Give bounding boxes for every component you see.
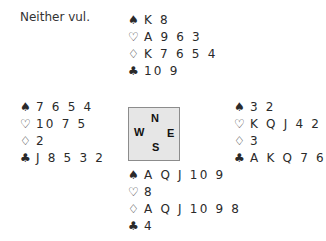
club-icon: ♣ <box>128 218 144 235</box>
north-spades: ♠K 8 <box>128 12 217 29</box>
east-spades: ♠3 2 <box>234 99 326 116</box>
diamond-icon: ♢ <box>234 133 250 150</box>
spade-icon: ♠ <box>20 99 36 116</box>
north-clubs: ♣10 9 <box>128 63 217 80</box>
west-hand: ♠7 6 5 4 ♡10 7 5 ♢2 ♣J 8 5 3 2 <box>20 99 105 167</box>
heart-icon: ♡ <box>234 116 250 133</box>
club-icon: ♣ <box>128 63 144 80</box>
east-hearts: ♡K Q J 4 2 <box>234 116 326 133</box>
club-icon: ♣ <box>234 150 250 167</box>
spade-icon: ♠ <box>128 167 144 184</box>
heart-icon: ♡ <box>20 116 36 133</box>
diamond-icon: ♢ <box>128 201 144 218</box>
compass-south: S <box>152 141 159 153</box>
west-spades: ♠7 6 5 4 <box>20 99 105 116</box>
compass-north: N <box>151 112 159 124</box>
east-hand: ♠3 2 ♡K Q J 4 2 ♢3 ♣A K Q 7 6 <box>234 99 326 167</box>
heart-icon: ♡ <box>128 184 144 201</box>
east-diamonds: ♢3 <box>234 133 326 150</box>
diamond-icon: ♢ <box>20 133 36 150</box>
east-clubs: ♣A K Q 7 6 <box>234 150 326 167</box>
compass-west: W <box>134 126 144 138</box>
north-diamonds: ♢K 7 6 5 4 <box>128 46 217 63</box>
west-hearts: ♡10 7 5 <box>20 116 105 133</box>
spade-icon: ♠ <box>234 99 250 116</box>
south-spades: ♠A Q J 10 9 <box>128 167 241 184</box>
south-diamonds: ♢A Q J 10 9 8 <box>128 201 241 218</box>
south-hearts: ♡8 <box>128 184 241 201</box>
south-clubs: ♣4 <box>128 218 241 235</box>
south-hand: ♠A Q J 10 9 ♡8 ♢A Q J 10 9 8 ♣4 <box>128 167 241 235</box>
north-hearts: ♡A 9 6 3 <box>128 29 217 46</box>
west-clubs: ♣J 8 5 3 2 <box>20 150 105 167</box>
compass-east: E <box>167 127 174 139</box>
heart-icon: ♡ <box>128 29 144 46</box>
west-diamonds: ♢2 <box>20 133 105 150</box>
diamond-icon: ♢ <box>128 46 144 63</box>
club-icon: ♣ <box>20 150 36 167</box>
north-hand: ♠K 8 ♡A 9 6 3 ♢K 7 6 5 4 ♣10 9 <box>128 12 217 80</box>
vulnerability-label: Neither vul. <box>20 10 90 24</box>
spade-icon: ♠ <box>128 12 144 29</box>
compass-box: N W E S <box>128 107 180 161</box>
